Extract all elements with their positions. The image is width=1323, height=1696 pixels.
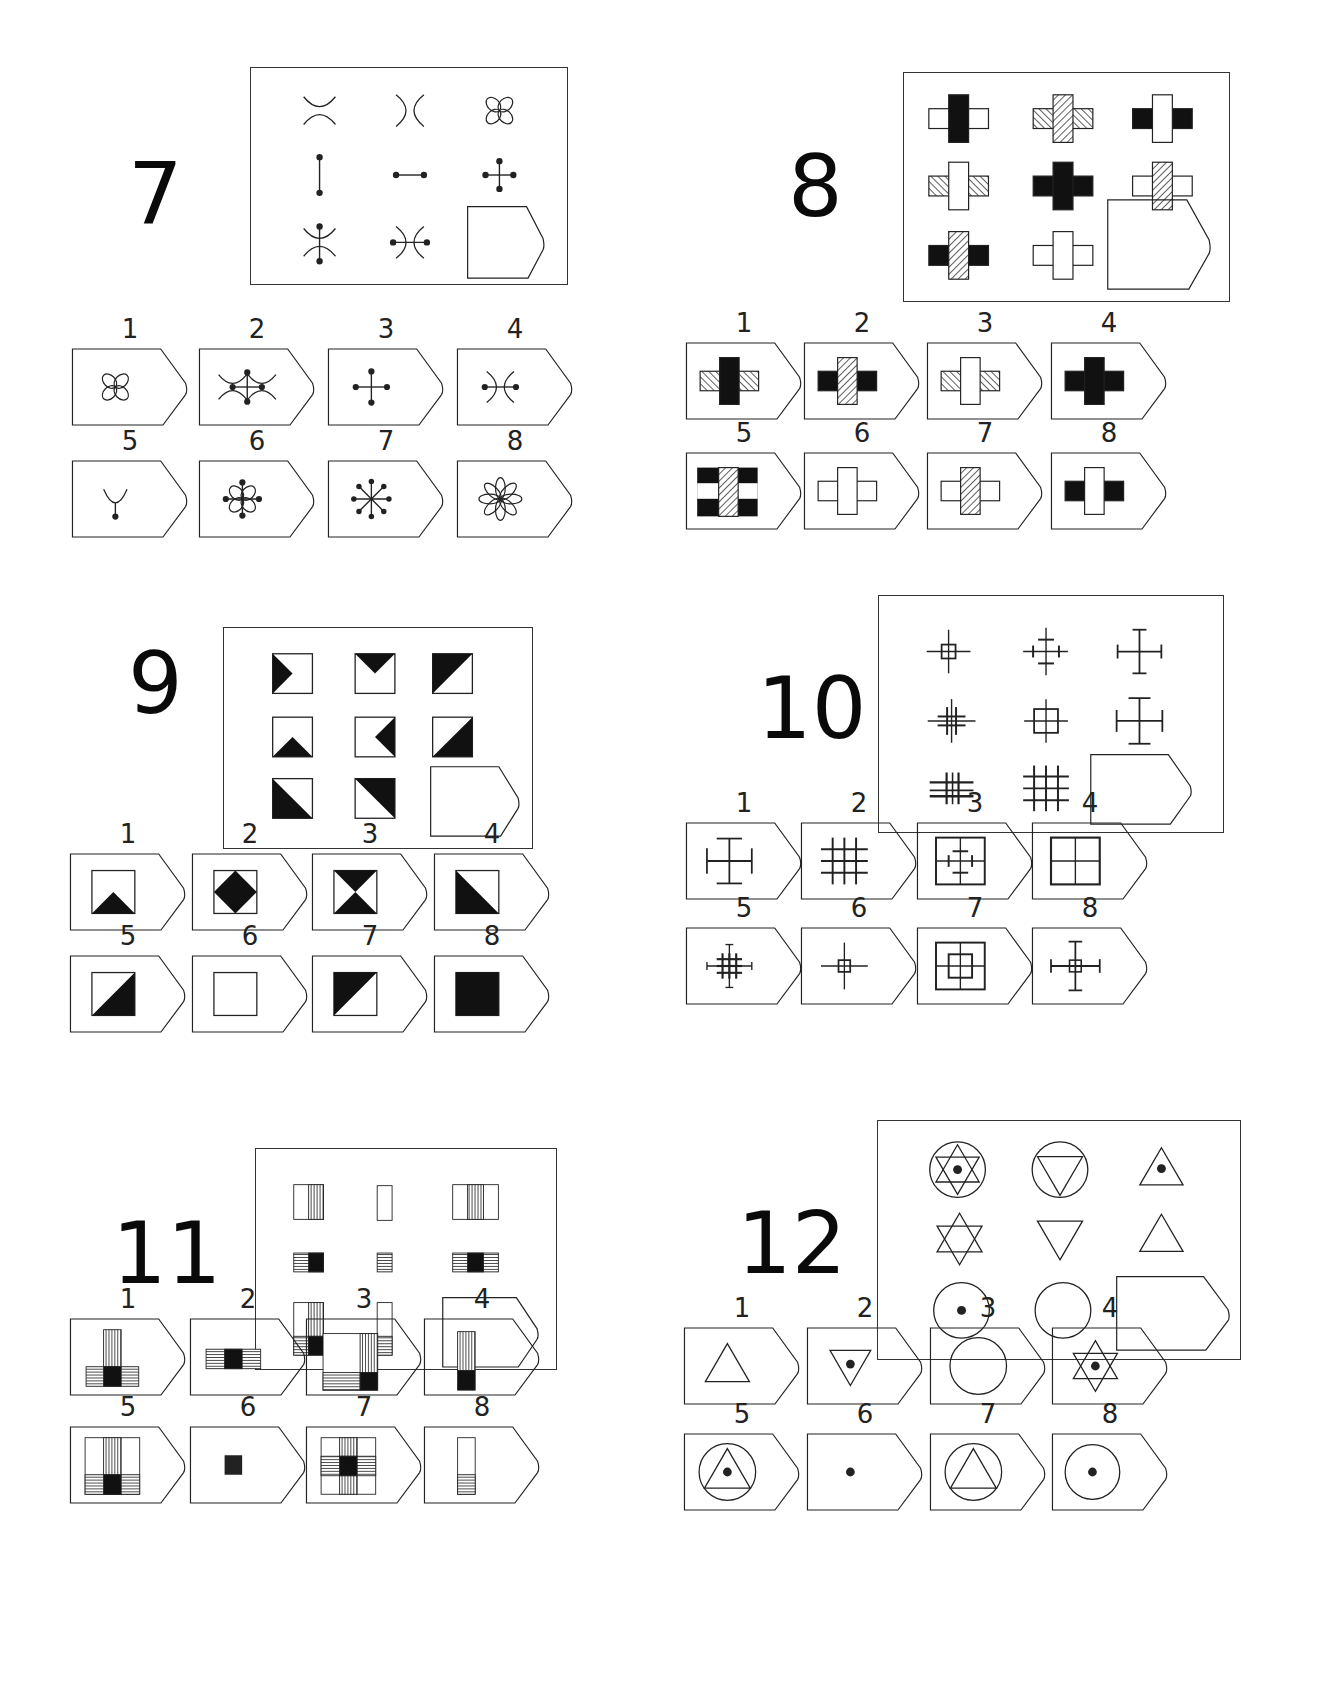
puzzle-8-option-4[interactable]: 4 black cross	[1049, 342, 1181, 428]
option-figure: hourglass	[334, 871, 377, 914]
puzzle-7-option-8[interactable]: 8 eight-petal flower	[455, 460, 587, 546]
puzzle-12-option-5[interactable]: 5 circle + triangle + dot	[682, 1433, 814, 1519]
option-card: square with inner barred cross	[915, 822, 1035, 900]
puzzle-9-option-5[interactable]: 5 bottom-right half	[68, 955, 200, 1041]
matrix-cell-3-1: bottom-left half	[273, 779, 313, 819]
puzzle-11-option-8[interactable]: 8 narrow rect with bottom stripes	[422, 1426, 554, 1512]
option-figure: vertical stripes with black base	[458, 1332, 476, 1391]
puzzle-7-option-4[interactable]: 4 arcs with horizontal dotted line	[455, 348, 587, 434]
puzzle-7-option-1[interactable]: 1 four-petal flower	[70, 348, 202, 434]
matrix-cell-2-3: white arms, hatched bar	[1133, 162, 1193, 210]
puzzle-8-option-7[interactable]: 7 white arms, hatched bar	[925, 452, 1057, 538]
option-card: square with full cross stripes	[304, 1426, 424, 1504]
option-number-label: 6	[805, 1399, 925, 1429]
option-figure: solid square	[456, 973, 499, 1016]
option-card: horizontal band with black centre	[188, 1318, 308, 1396]
option-card: eight-petal flower	[455, 460, 575, 538]
option-figure: dot	[846, 1468, 855, 1477]
puzzle-7-option-2[interactable]: 2 arcs with cross and dots	[197, 348, 329, 434]
puzzle-9-option-6[interactable]: 6 empty square	[190, 955, 322, 1041]
puzzle-10-option-7[interactable]: 7 nested squares with cross	[915, 927, 1047, 1013]
puzzle-11-option-6[interactable]: 6 black square	[188, 1426, 320, 1512]
option-card: diamond	[190, 853, 310, 931]
option-number-label: 3	[925, 308, 1045, 338]
puzzle-10-option-6[interactable]: 6 tiny square cross	[799, 927, 931, 1013]
puzzle-10-option-5[interactable]: 5 dense barred grid	[684, 927, 816, 1013]
option-card: narrow rect with bottom stripes	[422, 1426, 542, 1504]
option-number-label: 4	[432, 819, 552, 849]
option-figure: inverted triangle + dot	[830, 1350, 871, 1385]
puzzle-11-option-7[interactable]: 7 square with full cross stripes	[304, 1426, 436, 1512]
puzzle-10-option-8[interactable]: 8 small square with end bars	[1030, 927, 1162, 1013]
matrix-cell-1-2: top triangle	[355, 654, 395, 694]
matrix-cell-3-2: white arms, white bar	[1033, 232, 1093, 280]
option-card: circle + dot	[1050, 1433, 1170, 1511]
puzzle-12-option-7[interactable]: 7 circle + triangle	[928, 1433, 1060, 1519]
option-number-label: 3	[326, 314, 446, 344]
matrix-cell-2-1: vertical line with dots	[316, 154, 322, 196]
option-card: dot	[805, 1433, 925, 1511]
puzzle-8-matrix: white arms, black barhatched arms, hatch…	[903, 72, 1230, 302]
puzzle-8-option-2[interactable]: 2 black arms, hatched bar	[802, 342, 934, 428]
matrix-cell-2-3: horizontal stripes with black middle	[453, 1253, 499, 1272]
matrix-figure: left triangletop triangletop-left halfbo…	[224, 628, 532, 848]
puzzle-7-option-3[interactable]: 3 cross with four dots	[326, 348, 458, 434]
option-card: hatched arms, white bar	[925, 342, 1045, 420]
option-figure: white arms, hatched bar	[941, 468, 1000, 515]
puzzle-12-option-8[interactable]: 8 circle + dot	[1050, 1433, 1182, 1519]
option-figure: diamond	[214, 871, 257, 914]
puzzle-8-number: 8	[788, 143, 843, 229]
puzzle-7-option-5[interactable]: 5 single arc with stem dot	[70, 460, 202, 546]
option-figure: top-left half	[334, 973, 377, 1016]
option-figure: arcs with cross and dots	[219, 369, 276, 404]
option-number-label: 8	[422, 1392, 542, 1422]
option-card: top-left half	[310, 955, 430, 1033]
option-number-label: 1	[68, 1284, 188, 1314]
matrix-cell-1-3: cross with end bars	[1118, 630, 1162, 674]
option-figure: triangle	[705, 1344, 749, 1382]
option-number-label: 8	[1049, 418, 1169, 448]
option-card: dense barred grid	[684, 927, 804, 1005]
option-card: tiny square cross	[799, 927, 919, 1005]
option-card: black square	[188, 1426, 308, 1504]
option-card: cross with end bars	[684, 822, 804, 900]
puzzle-7-option-7[interactable]: 7 eight-spoke dotted star	[326, 460, 458, 546]
missing-cell-placeholder[interactable]: ?	[468, 207, 544, 278]
matrix-cell-2-1: small grid cross	[928, 699, 976, 743]
puzzle-12-option-6[interactable]: 6 dot	[805, 1433, 937, 1519]
puzzle-9-option-8[interactable]: 8 solid square	[432, 955, 564, 1041]
option-figure: bottom triangle	[92, 871, 135, 914]
option-number-label: 7	[915, 893, 1035, 923]
matrix-cell-1-2: circle + inverted triangle	[1032, 1142, 1088, 1198]
option-card: eight-spoke dotted star	[326, 460, 446, 538]
matrix-cell-1-3: top-left half	[433, 654, 473, 694]
puzzle-8-option-8[interactable]: 8 black arms, white bar	[1049, 452, 1181, 538]
option-card: square with vertical/horizontal stripes	[68, 1426, 188, 1504]
puzzle-9-option-7[interactable]: 7 top-left half	[310, 955, 442, 1041]
matrix-cell-3-2: top-right half	[355, 779, 395, 819]
option-figure: square divided in four	[1051, 838, 1100, 885]
matrix-cell-2-1: hatched arms, white bar	[929, 162, 989, 210]
option-figure: black cross	[1065, 358, 1124, 405]
matrix-cell-1-2: cross with short bars	[1023, 628, 1068, 676]
option-card: bottom triangle	[68, 853, 188, 931]
option-figure: white cross	[818, 468, 877, 515]
option-number-label: 8	[455, 426, 575, 456]
puzzle-7-option-6[interactable]: 6 four-petal flower with dotted cross	[197, 460, 329, 546]
matrix-cell-1-3: triangle + dot	[1140, 1148, 1183, 1185]
matrix-cell-1-1: left triangle	[273, 654, 313, 694]
puzzle-8-option-5[interactable]: 5 black/white striped arms, hatched bar	[684, 452, 816, 538]
option-number-label: 5	[68, 921, 188, 951]
matrix-cell-3-2: arcs + horizontal dotted line	[390, 227, 430, 259]
option-number-label: 5	[684, 893, 804, 923]
option-card: circle + triangle + dot	[682, 1433, 802, 1511]
puzzle-8-option-6[interactable]: 6 white cross	[802, 452, 934, 538]
missing-cell-placeholder[interactable]: ?	[1108, 200, 1210, 289]
puzzle-8-option-1[interactable]: 1 hatched arms, black bar	[684, 342, 816, 428]
puzzle-11-option-5[interactable]: 5 square with vertical/horizontal stripe…	[68, 1426, 200, 1512]
option-card: single arc with stem dot	[70, 460, 190, 538]
option-number-label: 1	[682, 1293, 802, 1323]
option-number-label: 4	[1050, 1293, 1170, 1323]
puzzle-8-option-3[interactable]: 3 hatched arms, white bar	[925, 342, 1057, 428]
option-number-label: 1	[684, 308, 804, 338]
